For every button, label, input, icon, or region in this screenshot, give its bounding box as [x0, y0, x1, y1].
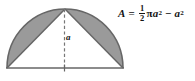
formula-fraction-denominator: 2	[139, 14, 145, 23]
figure-root: a A = 1 2 π a 2 − a 2	[0, 0, 195, 81]
formula-minus-sign: −	[165, 7, 171, 19]
area-formula: A = 1 2 π a 2 − a 2	[118, 1, 195, 25]
formula-lhs-A: A	[118, 7, 126, 19]
formula-equals-sign: =	[129, 7, 135, 19]
geometry-diagram	[0, 0, 130, 81]
formula-one-half-fraction: 1 2	[139, 4, 145, 23]
formula-fraction-numerator: 1	[139, 4, 145, 13]
altitude-label: a	[66, 33, 71, 42]
